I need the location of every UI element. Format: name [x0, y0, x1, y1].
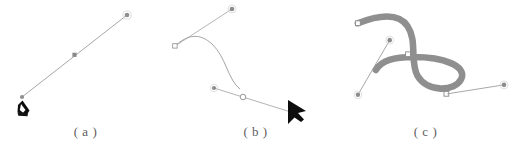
panel-a-caption: ( a ): [0, 124, 171, 140]
panel-b-canvas: [170, 0, 341, 125]
anchor-point-upper-middle[interactable]: [406, 52, 411, 57]
panel-b: ( b ): [170, 0, 341, 153]
anchor-point-current[interactable]: [240, 94, 246, 100]
handle-dot-upper[interactable]: [230, 7, 235, 12]
anchor-point-middle[interactable]: [72, 53, 76, 57]
anchor-point-left-end[interactable]: [356, 21, 361, 26]
handle-dot-lower-left[interactable]: [212, 86, 216, 90]
anchor-point-first[interactable]: [173, 44, 177, 48]
pen-tool-cursor: [18, 101, 30, 117]
panel-b-caption: ( b ): [170, 124, 341, 140]
anchor-point-start[interactable]: [20, 95, 24, 99]
path-curve-bezier: [175, 36, 240, 89]
panel-a: ( a ): [0, 0, 171, 153]
handle-line-upper: [175, 9, 232, 46]
handle-dot-left-upper[interactable]: [387, 38, 392, 43]
panel-c-caption: ( c ): [340, 124, 511, 140]
handle-line-lower: [214, 88, 294, 113]
handle-dot-right[interactable]: [502, 83, 507, 88]
panel-a-canvas: [0, 0, 171, 125]
handle-dot-left-lower[interactable]: [356, 93, 360, 97]
panel-c-canvas: [340, 0, 511, 125]
handle-line-left: [358, 40, 390, 95]
anchor-point-end[interactable]: [125, 13, 130, 18]
arrow-pointer-cursor: [288, 100, 306, 124]
figure-container: ( a ) ( b ): [0, 0, 512, 153]
panel-c: ( c ): [340, 0, 511, 153]
